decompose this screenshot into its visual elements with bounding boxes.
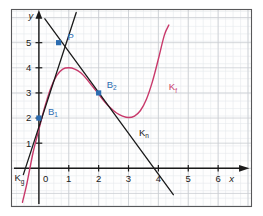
point-b2-marker — [96, 90, 101, 95]
x-tick-label: 1 — [66, 173, 71, 184]
plot-canvas: 123456123450xyKfKnKgB1B2P — [0, 0, 263, 216]
x-tick-label: 3 — [126, 173, 131, 184]
y-tick-label: 3 — [26, 87, 31, 98]
y-tick-label: 4 — [26, 62, 31, 73]
y-tick-label: 2 — [26, 112, 31, 123]
function-graph-figure: 123456123450xyKfKnKgB1B2P — [0, 0, 263, 216]
origin-label: 0 — [43, 173, 48, 184]
point-p-marker — [56, 40, 61, 45]
x-tick-label: 6 — [215, 173, 220, 184]
y-tick-label: 5 — [26, 37, 31, 48]
point-p-label: P — [68, 31, 74, 42]
point-b1-marker — [36, 115, 41, 120]
y-tick-label: 1 — [26, 138, 31, 149]
x-tick-label: 5 — [186, 173, 191, 184]
x-tick-label: 2 — [96, 173, 101, 184]
